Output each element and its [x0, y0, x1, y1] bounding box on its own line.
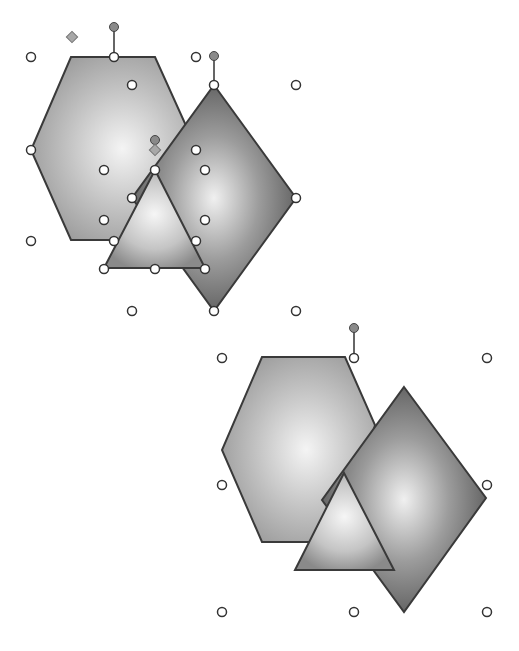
group-rotation-handle[interactable] — [350, 324, 359, 333]
sizing-handle[interactable] — [100, 265, 109, 274]
sizing-handle[interactable] — [201, 166, 210, 175]
sizing-handle[interactable] — [350, 354, 359, 363]
diamond-rotation-handle[interactable] — [210, 52, 219, 61]
sizing-handle[interactable] — [100, 216, 109, 225]
sizing-handle[interactable] — [27, 146, 36, 155]
sizing-handle[interactable] — [483, 481, 492, 490]
sizing-handle[interactable] — [100, 166, 109, 175]
sizing-handle[interactable] — [292, 194, 301, 203]
sizing-handle[interactable] — [128, 307, 137, 316]
sizing-handle[interactable] — [210, 81, 219, 90]
sizing-handle[interactable] — [110, 237, 119, 246]
sizing-handle[interactable] — [201, 216, 210, 225]
sizing-handle[interactable] — [210, 307, 219, 316]
sizing-handle[interactable] — [292, 81, 301, 90]
bottom-shape-group[interactable] — [218, 324, 492, 617]
sizing-handle[interactable] — [27, 53, 36, 62]
sizing-handle[interactable] — [27, 237, 36, 246]
sizing-handle[interactable] — [128, 81, 137, 90]
shapes-canvas — [0, 0, 519, 651]
sizing-handle[interactable] — [218, 608, 227, 617]
sizing-handle[interactable] — [483, 608, 492, 617]
sizing-handle[interactable] — [151, 166, 160, 175]
hexagon-adjust-handle[interactable] — [66, 31, 77, 42]
sizing-handle[interactable] — [192, 146, 201, 155]
sizing-handle[interactable] — [483, 354, 492, 363]
sizing-handle[interactable] — [201, 265, 210, 274]
top-shape-group[interactable] — [27, 23, 301, 316]
sizing-handle[interactable] — [110, 53, 119, 62]
triangle-rotation-handle[interactable] — [151, 136, 160, 145]
sizing-handle[interactable] — [128, 194, 137, 203]
sizing-handle[interactable] — [192, 237, 201, 246]
sizing-handle[interactable] — [292, 307, 301, 316]
sizing-handle[interactable] — [151, 265, 160, 274]
sizing-handle[interactable] — [218, 481, 227, 490]
sizing-handle[interactable] — [218, 354, 227, 363]
hexagon-rotation-handle[interactable] — [110, 23, 119, 32]
sizing-handle[interactable] — [350, 608, 359, 617]
sizing-handle[interactable] — [192, 53, 201, 62]
